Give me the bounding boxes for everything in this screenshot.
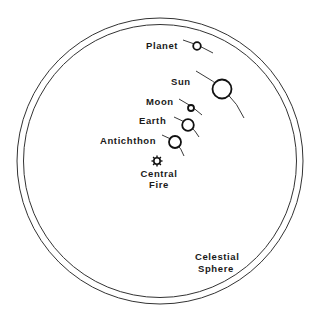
- central-fire: Central Fire: [141, 156, 178, 191]
- earth-body: Earth: [139, 115, 199, 137]
- antichthon-circle-icon: [169, 136, 181, 148]
- central-fire-icon: [152, 156, 163, 167]
- sun-label: Sun: [171, 76, 191, 87]
- central-fire-label-line1: Central: [141, 168, 178, 179]
- sun-circle-icon: [213, 80, 232, 99]
- moon-label: Moon: [146, 96, 174, 107]
- earth-label: Earth: [139, 115, 166, 126]
- antichthon-body: Antichthon: [100, 135, 184, 156]
- sun-body: Sun: [171, 71, 244, 118]
- celestial-sphere-label: Celestial Sphere: [195, 251, 239, 274]
- celestial-label-line2: Sphere: [198, 263, 234, 274]
- antichthon-label: Antichthon: [100, 135, 156, 146]
- celestial-label-line1: Celestial: [195, 251, 239, 262]
- earth-circle-icon: [182, 119, 194, 131]
- planet-circle-icon: [193, 42, 201, 50]
- cosmology-diagram: Planet Sun Moon Earth Antichthon: [0, 0, 315, 317]
- planet-body: Planet: [146, 40, 213, 53]
- planet-label: Planet: [146, 40, 178, 51]
- moon-body: Moon: [146, 96, 202, 115]
- moon-circle-icon: [188, 105, 194, 111]
- central-fire-label-line2: Fire: [149, 179, 169, 190]
